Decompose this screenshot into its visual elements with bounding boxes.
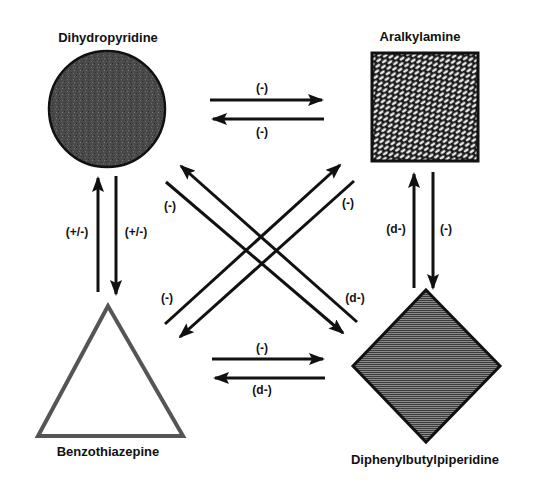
edge-label: (-) [256,81,268,95]
triangle-shape [38,306,183,436]
edge-label: (-) [342,196,354,210]
node-label-diphenylbutylpiperidine: Diphenylbutylpiperidine [351,452,499,467]
edge-btz-to-ara: (-) [161,165,340,324]
edge-dhp-to-dpbp: (-) [164,182,343,333]
node-dihydropyridine: Dihydropyridine [49,30,165,167]
edge-btz-to-dpbp: (-) [212,341,323,359]
node-label-benzothiazepine: Benzothiazepine [57,444,160,459]
edge-label: (-) [256,125,268,139]
edge-ara-to-btz: (-) [180,181,354,337]
edge-label: (+/-) [125,225,147,239]
edge-dpbp-to-dhp: (d-) [181,166,365,322]
drug-interaction-diagram: Dihydropyridine Aralkylamine Benzothiaze… [0,0,533,488]
edge-label: (d-) [252,383,271,397]
edge-ara-to-dhp: (-) [213,119,324,139]
edge-dhp-to-btz: (+/-) [116,176,147,294]
edge-label: (-) [161,291,173,305]
edge-ara-to-dpbp: (-) [433,172,452,288]
edge-dpbp-to-ara: (d-) [386,174,414,288]
node-aralkylamine: Aralkylamine [372,29,478,161]
edge-btz-to-dhp: (+/-) [66,178,98,292]
diamond-shape [353,290,500,442]
edge-label: (-) [164,199,176,213]
node-benzothiazepine: Benzothiazepine [38,306,183,459]
edge-label: (+/-) [66,225,88,239]
node-label-aralkylamine: Aralkylamine [380,29,461,44]
edge-dhp-to-ara: (-) [210,81,322,100]
edge-dpbp-to-btz: (d-) [215,378,325,397]
edge-label: (-) [440,222,452,236]
circle-shape [49,51,165,167]
node-diphenylbutylpiperidine: Diphenylbutylpiperidine [351,290,500,467]
edge-label: (-) [256,341,268,355]
edge-label: (d-) [386,222,405,236]
square-shape [372,53,478,161]
edge-label: (d-) [345,291,364,305]
node-label-dihydropyridine: Dihydropyridine [58,30,158,45]
